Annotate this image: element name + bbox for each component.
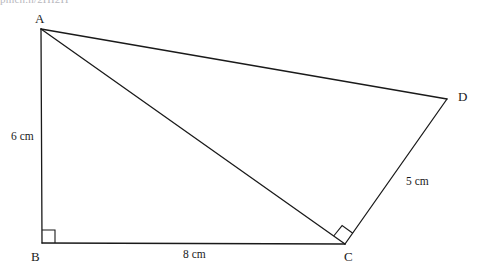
label-bc-length: 8 cm <box>183 249 206 261</box>
segment-da <box>41 29 447 99</box>
right-angle-at-c <box>334 226 353 236</box>
vertex-label-b: B <box>31 250 40 263</box>
vertex-label-c: C <box>344 250 353 263</box>
label-cd-length: 5 cm <box>406 176 429 188</box>
right-angle-at-b <box>42 230 55 243</box>
segment-ab <box>41 29 42 243</box>
geometry-figure <box>0 0 488 276</box>
diagram-canvas: pmcn.n/2HI2H A B C D 6 cm 8 cm 5 cm <box>0 0 488 276</box>
vertex-label-d: D <box>458 90 467 103</box>
segment-bc <box>42 243 345 244</box>
diagonal-ac <box>41 29 345 244</box>
segment-cd <box>345 99 447 244</box>
label-ab-length: 6 cm <box>11 131 34 143</box>
vertex-label-a: A <box>35 12 44 25</box>
